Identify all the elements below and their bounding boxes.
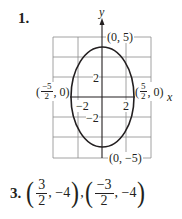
answer-1-num: 3 — [36, 178, 47, 194]
point-left-close: , 0) — [54, 86, 70, 98]
problem-3-number: 3. — [10, 185, 21, 202]
open-paren-1: ( — [26, 177, 34, 207]
point-bottom-label: (0, −5) — [108, 152, 143, 164]
close-paren-2: ) — [137, 177, 145, 207]
answer-2-den: 2 — [101, 194, 108, 209]
point-left-den: 2 — [45, 92, 50, 101]
close-paren-1: ) — [71, 177, 79, 207]
y-tick-2: 2 — [93, 72, 99, 84]
point-right-open: ( — [135, 86, 139, 98]
x-axis-label: x — [167, 91, 172, 103]
y-axis-label: y — [99, 6, 104, 18]
answer-1-den: 2 — [38, 194, 45, 209]
point-right-close: , 0) — [148, 86, 164, 98]
problem-3-answer: 3. ( 3 2 , −4 ) , ( −3 2 , −4 ) — [10, 178, 146, 208]
point-left-fraction: −5 2 — [41, 82, 53, 101]
answer-2-num: −3 — [95, 178, 114, 194]
y-tick-neg2: −2 — [86, 112, 99, 124]
answer-1-fraction: 3 2 — [36, 178, 47, 208]
open-paren-2: ( — [85, 177, 93, 207]
answer-1-y: , −4 — [48, 185, 70, 201]
answer-separator: , — [80, 185, 84, 201]
x-tick-2: 2 — [123, 100, 129, 112]
point-left-open: ( — [36, 86, 40, 98]
point-right-den: 2 — [141, 92, 146, 101]
point-right-label: ( 5 2 , 0) — [135, 82, 164, 101]
answer-2-y: , −4 — [115, 185, 137, 201]
answer-2-fraction: −3 2 — [95, 178, 114, 208]
point-top-label: (0, 5) — [106, 31, 134, 43]
point-left-label: ( −5 2 , 0) — [36, 82, 70, 101]
point-right-fraction: 5 2 — [140, 82, 147, 101]
